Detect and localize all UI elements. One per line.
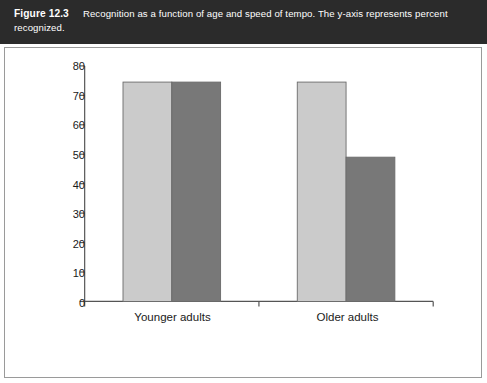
- figure-container: Figure 12.3Recognition as a function of …: [0, 0, 487, 383]
- x-axis-category-label: Older adults: [316, 311, 378, 323]
- chart-panel: 01020304050607080 Younger adultsOlder ad…: [4, 47, 482, 378]
- y-axis-tick-label: 10: [73, 267, 85, 279]
- x-axis-tick-marks: [85, 301, 434, 306]
- y-axis-tick-label: 60: [73, 119, 85, 131]
- y-axis-labels: 01020304050607080: [57, 48, 85, 377]
- x-axis-category-label: Younger adults: [134, 311, 210, 323]
- bar-fast-younger-adults: [172, 82, 221, 301]
- bar-slow-older-adults: [297, 82, 346, 301]
- y-axis-tick-label: 80: [73, 60, 85, 72]
- y-axis-tick-label: 20: [73, 238, 85, 250]
- y-axis-tick-label: 70: [73, 90, 85, 102]
- figure-header: Figure 12.3Recognition as a function of …: [0, 0, 487, 44]
- figure-caption-text-part1: Recognition as a function of age and spe…: [83, 8, 338, 19]
- bars-layer: [123, 82, 395, 301]
- y-axis-tick-label: 50: [73, 149, 85, 161]
- y-axis-tick-label: 0: [79, 297, 85, 309]
- bar-fast-older-adults: [346, 157, 395, 301]
- y-axis-tick-label: 40: [73, 179, 85, 191]
- figure-caption-block: Figure 12.3Recognition as a function of …: [14, 7, 473, 34]
- y-axis-tick-label: 30: [73, 208, 85, 220]
- figure-number-label: Figure 12.3: [14, 8, 69, 19]
- bar-slow-younger-adults: [123, 82, 172, 301]
